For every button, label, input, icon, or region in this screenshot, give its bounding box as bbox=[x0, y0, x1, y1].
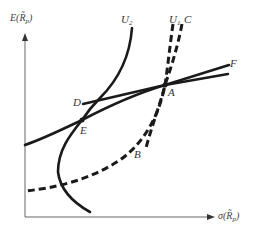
point-a-marker bbox=[163, 83, 168, 88]
point-e-marker bbox=[80, 118, 85, 123]
u2-label: U2 bbox=[121, 14, 132, 29]
frontier-curve-e-a-f bbox=[25, 65, 229, 145]
u1-label-text: U bbox=[169, 13, 177, 25]
u2-label-text: U bbox=[121, 13, 129, 25]
point-b-label: B bbox=[134, 149, 141, 160]
point-d-label: D bbox=[73, 97, 81, 108]
u2-indifference-curve bbox=[58, 28, 132, 212]
x-axis-arrow-icon bbox=[207, 214, 215, 220]
u1-label-sub: 1 bbox=[177, 19, 181, 27]
axes bbox=[22, 33, 215, 220]
point-e-label: E bbox=[80, 125, 87, 136]
y-axis-arrow-icon bbox=[22, 33, 28, 41]
u1-indifference-curve bbox=[25, 24, 173, 191]
c-label: C bbox=[184, 14, 191, 25]
x-label-suffix: ) bbox=[236, 210, 239, 221]
f-label: F bbox=[230, 58, 237, 69]
diagram-canvas bbox=[0, 0, 258, 231]
u1-label: U1 bbox=[169, 14, 180, 29]
y-label-suffix: ) bbox=[29, 12, 32, 23]
u2-label-sub: 2 bbox=[129, 19, 133, 27]
y-axis-label: E(R̃p) bbox=[10, 12, 32, 27]
point-a-label: A bbox=[168, 87, 175, 98]
portfolio-diagram: E(R̃p) σ(R̃p) U2 U1 C F A B D E bbox=[0, 0, 258, 231]
x-axis-label: σ(R̃p) bbox=[218, 210, 239, 225]
